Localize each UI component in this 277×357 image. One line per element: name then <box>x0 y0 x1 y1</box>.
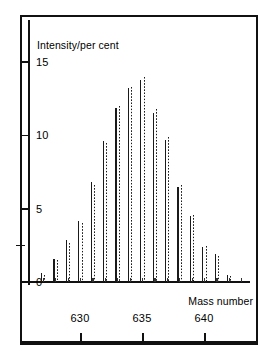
bar-observed-638 <box>177 187 178 282</box>
bar-calculated-628 <box>57 260 58 282</box>
bar-calculated-627 <box>44 275 45 282</box>
bar-observed-634 <box>128 88 129 282</box>
bar-observed-633 <box>115 108 116 283</box>
bar-calculated-636 <box>156 109 157 282</box>
bar-observed-628 <box>53 259 54 282</box>
bar-observed-636 <box>153 113 154 282</box>
x-axis-title: Mass number <box>188 296 253 307</box>
mass-scale-axis <box>22 341 258 343</box>
bar-calculated-639 <box>193 215 194 283</box>
figure-root: Intensity/per cent Mass number 051015 63… <box>0 0 277 357</box>
bar-observed-630 <box>78 221 79 283</box>
mass-scale-label-640: 640 <box>195 313 214 324</box>
bar-observed-627 <box>41 273 42 282</box>
bar-observed-635 <box>140 80 141 283</box>
bar-calculated-629 <box>69 243 70 283</box>
mass-scale-tick-640 <box>204 333 206 341</box>
plot-area: Intensity/per cent Mass number 051015 63… <box>0 0 277 357</box>
bar-observed-642 <box>227 275 228 282</box>
bar-observed-631 <box>91 182 92 282</box>
bar-observed-641 <box>215 254 216 282</box>
mass-scale-tick-635 <box>142 333 144 341</box>
bar-observed-640 <box>202 247 203 282</box>
mass-scale-label-635: 635 <box>133 313 152 324</box>
mass-scale-tick-630 <box>80 333 82 341</box>
bar-observed-632 <box>103 141 104 282</box>
bar-calculated-642 <box>230 276 231 282</box>
bar-calculated-641 <box>218 256 219 282</box>
bar-group <box>0 0 277 282</box>
bar-calculated-635 <box>144 77 145 283</box>
bar-calculated-637 <box>168 137 169 282</box>
bar-observed-639 <box>190 216 191 282</box>
bar-calculated-640 <box>206 246 207 283</box>
bar-calculated-634 <box>131 87 132 282</box>
bar-observed-637 <box>165 140 166 282</box>
bar-calculated-633 <box>119 106 120 282</box>
bar-observed-629 <box>66 240 67 283</box>
bar-calculated-632 <box>106 143 107 282</box>
bar-calculated-631 <box>94 185 95 282</box>
bar-calculated-630 <box>82 223 83 282</box>
mass-scale-label-630: 630 <box>71 313 90 324</box>
bar-calculated-638 <box>181 185 182 282</box>
